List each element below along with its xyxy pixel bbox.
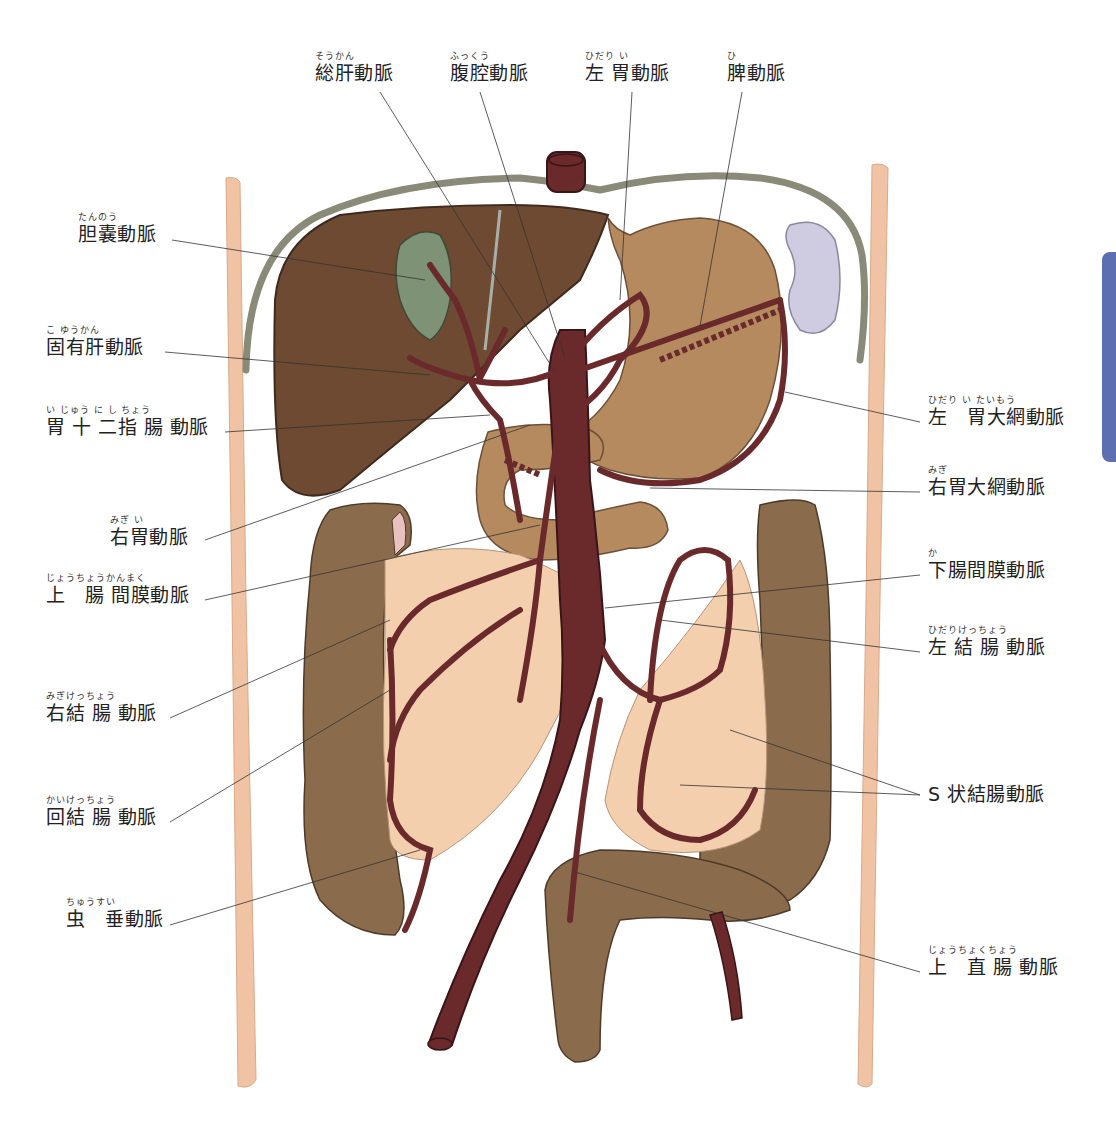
label-text: 右結 腸 動脈 [46,704,157,723]
label-text: 固有肝動脈 [46,338,144,357]
label-ruby: ちゅうすい [66,898,164,908]
label-ruby: ひだりけっちょう [928,626,1045,636]
label-ruby: みぎけっちょう [46,692,157,702]
label-ruby: みぎ [928,466,1045,476]
label-text: 右胃動脈 [110,528,188,547]
label-text: 脾動脈 [727,64,786,83]
label-appendicular-artery: ちゅうすい 虫 垂動脈 [66,898,164,929]
label-text: 上 腸 間膜動脈 [46,586,189,605]
label-sigmoid-arteries: S 状結腸動脈 [928,773,1045,804]
label-ruby: そうかん [315,52,393,62]
label-ruby: い じゅう に し ちょう [46,406,209,416]
label-ruby: みぎ い [110,516,188,526]
label-text: 左 胃動脈 [585,64,670,83]
label-left-gastric-artery: ひだり い 左 胃動脈 [585,52,670,83]
label-left-colic-artery: ひだりけっちょう 左 結 腸 動脈 [928,626,1045,657]
label-ruby [928,773,1045,783]
aorta-top [547,152,585,192]
label-right-gastric-artery: みぎ い 右胃動脈 [110,516,188,547]
label-text: 総肝動脈 [315,64,393,83]
label-ruby: ひだり い たいもう [928,396,1065,406]
label-ruby: かいけっちょう [46,796,157,806]
label-text: 胃 十 二指 腸 動脈 [46,418,209,437]
label-celiac-artery: ふっくう 腹腔動脈 [450,52,528,83]
label-text: 回結 腸 動脈 [46,808,157,827]
label-text: 虫 垂動脈 [66,910,164,929]
label-ruby: ひだり い [585,52,670,62]
label-gastroduodenal-artery: い じゅう に し ちょう 胃 十 二指 腸 動脈 [46,406,209,437]
label-right-colic-artery: みぎけっちょう 右結 腸 動脈 [46,692,157,723]
label-right-gastroepiploic-artery: みぎ 右胃大網動脈 [928,466,1045,497]
side-index-tab[interactable] [1102,252,1116,462]
label-ruby: か [928,549,1045,559]
label-ruby: ひ [727,52,786,62]
iliac-artery-right [710,912,742,1020]
label-ileocolic-artery: かいけっちょう 回結 腸 動脈 [46,796,157,827]
label-text: S 状結腸動脈 [928,785,1045,804]
label-ruby: じょうちょうかんまく [46,574,189,584]
label-text: 上 直 腸 動脈 [928,958,1058,977]
label-left-gastroepiploic-artery: ひだり い たいもう 左 胃大網動脈 [928,396,1065,427]
label-ruby: こ ゆうかん [46,326,144,336]
label-text: 胆嚢動脈 [78,225,156,244]
label-ruby: じょうちょくちょう [928,946,1058,956]
label-text: 左 胃大網動脈 [928,408,1065,427]
label-text: 右胃大網動脈 [928,478,1045,497]
label-superior-mesenteric-artery: じょうちょうかんまく 上 腸 間膜動脈 [46,574,189,605]
spleen [786,222,840,333]
label-splenic-artery: ひ 脾動脈 [727,52,786,83]
label-text: 左 結 腸 動脈 [928,638,1045,657]
label-text: 下腸間膜動脈 [928,561,1045,580]
label-proper-hepatic-artery: こ ゆうかん 固有肝動脈 [46,326,144,357]
label-inferior-mesenteric-artery: か 下腸間膜動脈 [928,549,1045,580]
rectum [545,850,790,1062]
label-superior-rectal-artery: じょうちょくちょう 上 直 腸 動脈 [928,946,1058,977]
label-common-hepatic-artery: そうかん 総肝動脈 [315,52,393,83]
label-text: 腹腔動脈 [450,64,528,83]
label-cystic-artery: たんのう 胆嚢動脈 [78,213,156,244]
label-ruby: ふっくう [450,52,528,62]
label-ruby: たんのう [78,213,156,223]
